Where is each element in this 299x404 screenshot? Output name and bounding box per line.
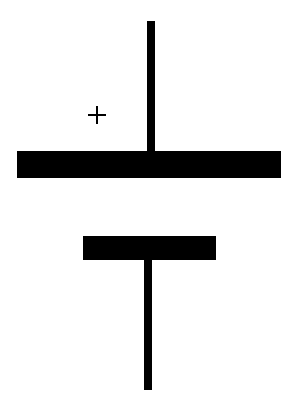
- plus-sign-icon: +: [86, 104, 108, 126]
- negative-terminal-lead: [144, 258, 152, 390]
- negative-plate: [83, 236, 216, 260]
- positive-terminal-lead: [147, 21, 155, 153]
- positive-plate: [17, 151, 281, 178]
